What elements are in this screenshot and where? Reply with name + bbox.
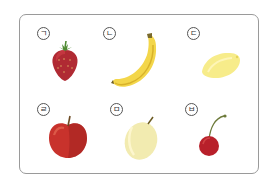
label-digeut: ㄷ bbox=[187, 27, 200, 40]
label-giyeok: ㄱ bbox=[37, 27, 50, 40]
banana-icon bbox=[110, 33, 166, 91]
plum-icon bbox=[122, 115, 162, 161]
cherry-icon bbox=[196, 114, 230, 156]
lemon-icon bbox=[200, 50, 242, 80]
apple-icon bbox=[48, 115, 88, 159]
strawberry-icon bbox=[50, 40, 80, 82]
